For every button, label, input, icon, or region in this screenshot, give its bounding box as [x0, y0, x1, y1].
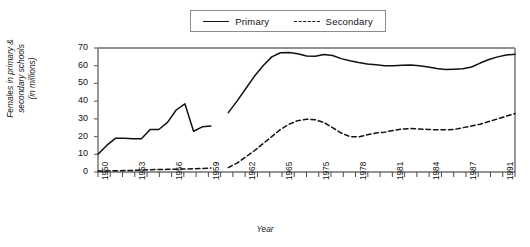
series-line-secondary — [98, 168, 211, 171]
series-line-secondary — [228, 114, 515, 168]
plot-area — [0, 0, 530, 247]
line-chart: Primary Secondary Females in primary & s… — [0, 0, 530, 247]
series-line-primary — [98, 104, 211, 154]
series-line-primary — [228, 52, 515, 112]
